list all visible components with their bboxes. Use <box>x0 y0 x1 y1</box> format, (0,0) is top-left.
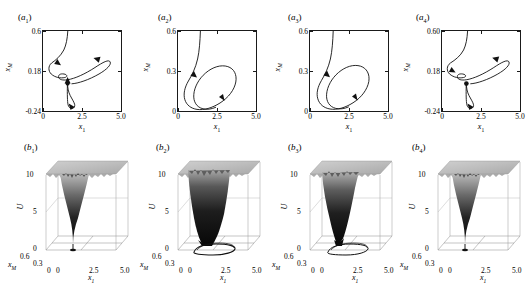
xm-tick-b1-0: 0.6 <box>20 252 29 261</box>
panel-label-a2: (a2) <box>158 12 172 24</box>
panel-b2: (b2) <box>132 140 264 281</box>
y-axis-label-a1: xM <box>3 63 14 71</box>
u-tick-b1-2: 0 <box>33 244 37 253</box>
xm-tick-b2-0: 0.6 <box>152 252 161 261</box>
x-tick-a1-0: 0 <box>41 112 45 121</box>
u-axis-label-b3: U <box>280 204 289 210</box>
surface-plot-b4: 10 5 0 U 0.6 0.3 0 xM 0 2.5 5.0 x1 <box>396 140 529 281</box>
x1-axis-label-b3: x1 <box>352 273 358 284</box>
xm-tick-b1-1: 0.3 <box>33 259 42 268</box>
xm-tick-b3-1: 0.3 <box>297 259 306 268</box>
x-tick-a4-0: 0 <box>440 112 444 121</box>
trajectory-curve-a4 <box>442 31 522 113</box>
panel-label-a3: (a3) <box>288 12 302 24</box>
u-tick-b3-1: 5 <box>297 207 301 216</box>
x1-axis-label-b1: x1 <box>88 273 94 284</box>
xm-tick-b4-2: 0 <box>439 266 443 275</box>
plot-area-a3: 0.6 0.3 0 0 2.5 5.0 <box>309 30 389 112</box>
panel-a1: (a1) 0.6 0.18 -0.24 0 2.5 5.0 <box>0 0 132 140</box>
xm-axis-label-b1: xM <box>8 260 16 271</box>
trajectory-curve-a1 <box>43 31 123 113</box>
y-tick-a1-1: 0.18 <box>28 67 41 76</box>
x1-tick-b1-2: 5.0 <box>120 266 129 275</box>
u-tick-b3-2: 0 <box>297 244 301 253</box>
x-tick-a3-0: 0 <box>308 112 312 121</box>
u-tick-b4-2: 0 <box>425 244 429 253</box>
xm-axis-label-b2: xM <box>140 260 148 271</box>
x-axis-label-a2: x1 <box>214 122 220 133</box>
xm-axis-label-b3: xM <box>272 260 280 271</box>
x-tick-a4-2: 5.0 <box>515 112 524 121</box>
y-tick-a2-1: 0.3 <box>167 67 176 76</box>
u-tick-b3-0: 10 <box>290 170 298 179</box>
u-axis-label-b4: U <box>408 204 417 210</box>
x-tick-a2-2: 5.0 <box>251 112 260 121</box>
trajectory-curve-a2 <box>178 31 258 113</box>
y-axis-label-a2: xM <box>141 63 152 71</box>
u-tick-b2-0: 10 <box>158 170 166 179</box>
trajectory-curve-a3 <box>310 31 390 113</box>
xm-tick-b2-1: 0.3 <box>165 259 174 268</box>
plot-area-a2: 0.6 0.3 0 0 2.5 5.0 <box>177 30 257 112</box>
panel-b3: (b3) <box>264 140 396 281</box>
y-tick-a4-0: 0.60 <box>427 27 440 36</box>
u-axis-label-b1: U <box>16 204 25 210</box>
x-tick-a1-2: 5.0 <box>116 112 125 121</box>
panel-b4: (b4) <box>396 140 529 281</box>
x1-tick-b3-0: 0 <box>320 266 324 275</box>
xm-tick-b3-2: 0 <box>311 266 315 275</box>
panel-a3: (a3) 0.6 0.3 0 0 2.5 5.0 xM <box>264 0 396 140</box>
panel-a4: (a4) 0.60 0.18 -0.24 0 2.5 5.0 <box>396 0 529 140</box>
x1-axis-label-b2: x1 <box>220 273 226 284</box>
x1-axis-label-b4: x1 <box>480 273 486 284</box>
u-tick-b2-1: 5 <box>165 207 169 216</box>
x-tick-a3-1: 2.5 <box>344 112 353 121</box>
xm-axis-label-b4: xM <box>400 260 408 271</box>
surface-plot-b1: 10 5 0 U 0.6 0.3 0 xM 0 2.5 5.0 x1 <box>0 140 132 281</box>
y-tick-a3-1: 0.3 <box>299 67 308 76</box>
x1-tick-b3-2: 5.0 <box>384 266 393 275</box>
u-tick-b1-0: 10 <box>26 170 34 179</box>
xm-tick-b4-0: 0.6 <box>412 252 421 261</box>
panel-label-a4: (a4) <box>416 12 430 24</box>
u-tick-b1-1: 5 <box>33 207 37 216</box>
y-tick-a4-2: -0.24 <box>424 107 440 116</box>
surface-plot-b3: 10 5 0 U 0.6 0.3 0 xM 0 2.5 5.0 x1 <box>264 140 396 281</box>
y-tick-a2-0: 0.6 <box>167 27 176 36</box>
y-tick-a4-1: 0.18 <box>427 67 440 76</box>
x-axis-label-a3: x1 <box>346 122 352 133</box>
y-tick-a1-2: -0.24 <box>25 107 41 116</box>
x1-tick-b1-0: 0 <box>56 266 60 275</box>
surface-plot-b2: 10 5 0 U 0.6 0.3 0 xM 0 2.5 5.0 x1 <box>132 140 264 281</box>
x-tick-a2-1: 2.5 <box>212 112 221 121</box>
u-tick-b4-0: 10 <box>418 170 426 179</box>
y-axis-label-a4: xM <box>401 63 412 71</box>
x-axis-label-a4: x1 <box>478 122 484 133</box>
u-axis-label-b2: U <box>148 204 157 210</box>
x-tick-a2-0: 0 <box>176 112 180 121</box>
x1-tick-b4-2: 5.0 <box>512 266 521 275</box>
x-tick-a1-1: 2.5 <box>77 112 86 121</box>
x1-tick-b2-2: 5.0 <box>252 266 261 275</box>
xm-tick-b1-2: 0 <box>47 266 51 275</box>
xm-tick-b2-2: 0 <box>179 266 183 275</box>
plot-area-a1: 0.6 0.18 -0.24 0 2.5 5.0 <box>42 30 122 112</box>
x-tick-a3-2: 5.0 <box>383 112 392 121</box>
x-axis-label-a1: x1 <box>79 122 85 133</box>
y-axis-label-a3: xM <box>273 63 284 71</box>
xm-tick-b4-1: 0.3 <box>425 259 434 268</box>
plot-area-a4: 0.60 0.18 -0.24 0 2.5 5.0 <box>441 30 521 112</box>
y-tick-a1-0: 0.6 <box>32 27 41 36</box>
panel-label-a1: (a1) <box>18 12 32 24</box>
x1-tick-b4-0: 0 <box>448 266 452 275</box>
u-tick-b4-1: 5 <box>425 207 429 216</box>
x1-tick-b2-0: 0 <box>188 266 192 275</box>
x-tick-a4-1: 2.5 <box>476 112 485 121</box>
panel-a2: (a2) 0.6 0.3 0 0 2.5 5.0 <box>132 0 264 140</box>
y-tick-a3-0: 0.6 <box>299 27 308 36</box>
u-tick-b2-2: 0 <box>165 244 169 253</box>
xm-tick-b3-0: 0.6 <box>284 252 293 261</box>
panel-b1: (b1) <box>0 140 132 281</box>
